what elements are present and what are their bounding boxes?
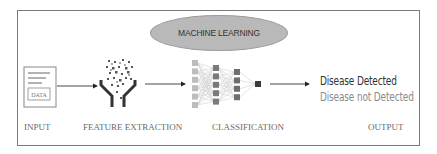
stage-label-input: INPUT <box>24 122 51 132</box>
nn-node <box>213 82 219 88</box>
nn-node <box>213 90 219 96</box>
stage-label-output: OUTPUT <box>368 122 404 132</box>
nn-node <box>213 65 219 71</box>
funnel-particles-icon <box>101 59 135 107</box>
neural-network-icon <box>192 60 261 108</box>
nn-node <box>192 77 198 83</box>
stage-label-feature-extraction: FEATURE EXTRACTION <box>83 122 182 132</box>
document-icon: DATA <box>24 67 56 107</box>
nn-connection <box>240 84 256 97</box>
output-disease-not-detected: Disease not Detected <box>320 90 414 104</box>
nn-node <box>234 86 240 92</box>
nn-connection <box>240 84 256 89</box>
nn-node <box>192 94 198 100</box>
document-data-label: DATA <box>31 92 47 98</box>
nn-node <box>192 85 198 91</box>
nn-node <box>213 99 219 105</box>
stage-label-classification: CLASSIFICATION <box>212 122 284 132</box>
nn-node <box>234 69 240 75</box>
nn-node <box>213 73 219 79</box>
nn-node <box>234 77 240 83</box>
nn-node <box>192 68 198 74</box>
nn-node <box>234 94 240 100</box>
nn-node <box>192 60 198 66</box>
nn-node <box>192 102 198 108</box>
nn-node <box>255 81 261 87</box>
output-disease-detected: Disease Detected <box>320 74 397 88</box>
